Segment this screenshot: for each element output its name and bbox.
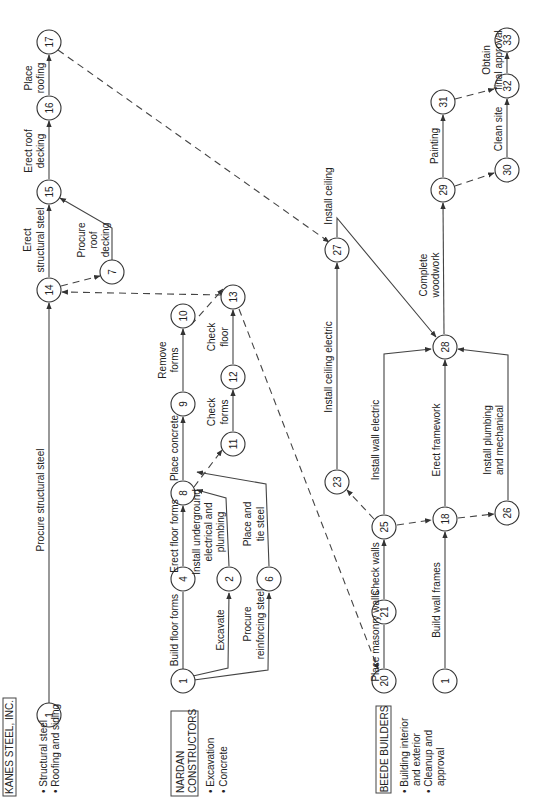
node-9[interactable]: 9 — [171, 392, 195, 416]
node-6[interactable]: 6 — [257, 567, 281, 591]
svg-text:13: 13 — [228, 291, 239, 303]
label-place-tie-steel-2: tie steel — [255, 507, 266, 541]
svg-text:10: 10 — [178, 310, 189, 322]
node-2[interactable]: 2 — [217, 567, 241, 591]
svg-text:4: 4 — [178, 576, 189, 582]
node-15[interactable]: 15 — [37, 180, 61, 204]
edge-18-26 — [458, 514, 494, 518]
label-install-plumbing-2: and mechanical — [494, 405, 505, 475]
contractor-kanes: KANES STEEL, INC. • Structural steel • R… — [3, 698, 61, 796]
label-erect-framework: Erect framework — [431, 403, 442, 477]
label-complete-woodwork-1: Complete — [418, 253, 429, 296]
label-place-roofing-2: roofing — [35, 63, 46, 94]
svg-text:8: 8 — [178, 490, 189, 496]
node-25[interactable]: 25 — [372, 515, 396, 539]
edge-29-30 — [455, 173, 494, 186]
label-procure-roof-decking-3: decking — [100, 223, 111, 257]
label-procure-roof-decking-1: Procure — [76, 222, 87, 257]
svg-text:1: 1 — [440, 678, 451, 684]
label-remove-forms-2: forms — [169, 348, 180, 373]
svg-text:2: 2 — [224, 576, 235, 582]
nardan-scope-1: • Excavation — [205, 738, 216, 793]
label-check-forms-2: forms — [219, 400, 230, 425]
label-erect-structural-steel-2: structural steel — [35, 207, 46, 272]
label-place-roofing-1: Place — [23, 65, 34, 90]
label-build-floor-forms: Build floor forms — [169, 594, 180, 666]
svg-text:9: 9 — [178, 401, 189, 407]
edge-8-11 — [194, 450, 222, 487]
edge-17-27 — [58, 50, 329, 242]
node-13[interactable]: 13 — [221, 285, 245, 309]
svg-text:16: 16 — [44, 102, 55, 114]
label-obtain-approval-1: Obtain — [481, 45, 492, 74]
label-place-concrete: Place concrete — [169, 414, 180, 481]
node-12[interactable]: 12 — [221, 365, 245, 389]
node-18[interactable]: 18 — [433, 507, 457, 531]
svg-text:12: 12 — [228, 371, 239, 383]
svg-text:17: 17 — [44, 36, 55, 48]
node-14[interactable]: 14 — [37, 278, 61, 302]
label-erect-roof-decking-1: Erect roof — [23, 129, 34, 173]
edge-25-18 — [397, 520, 431, 525]
edge-25-28 — [384, 349, 431, 514]
label-install-plumbing-1: Install plumbing — [482, 405, 493, 474]
node-7[interactable]: 7 — [100, 260, 124, 284]
svg-text:1: 1 — [178, 678, 189, 684]
svg-text:18: 18 — [440, 513, 451, 525]
network-diagram: 1 14 15 16 17 7 1 4 2 6 8 9 10 11 12 13 … — [0, 0, 533, 812]
edge-25-23 — [347, 490, 374, 519]
label-check-forms-1: Check — [206, 397, 217, 426]
svg-text:27: 27 — [332, 244, 343, 256]
svg-text:14: 14 — [44, 284, 55, 296]
svg-text:15: 15 — [44, 186, 55, 198]
label-excavate: Excavate — [215, 609, 226, 651]
label-place-tie-steel-1: Place and — [242, 502, 253, 546]
svg-text:11: 11 — [228, 438, 239, 449]
node-30[interactable]: 30 — [495, 158, 519, 182]
svg-text:28: 28 — [440, 341, 451, 353]
node-29[interactable]: 29 — [431, 178, 455, 202]
label-install-underground-1: Install underground — [191, 489, 202, 575]
svg-text:25: 25 — [379, 521, 390, 533]
beede-scope-3: • Cleanup and — [423, 730, 434, 793]
label-install-ceiling: Install ceiling — [323, 167, 334, 224]
label-remove-forms-1: Remove — [157, 341, 168, 379]
kanes-scope-1: • Structural steel — [38, 720, 49, 793]
node-16[interactable]: 16 — [37, 96, 61, 120]
label-erect-roof-decking-2: decking — [35, 134, 46, 168]
node-10[interactable]: 10 — [171, 304, 195, 328]
label-procure-reinforcing-2: reinforcing steel — [255, 589, 266, 660]
node-b1[interactable]: 1 — [433, 669, 457, 693]
beede-scope-1: • Building interior — [399, 717, 410, 793]
edge-13-14 — [62, 292, 222, 295]
label-painting: Painting — [429, 128, 440, 164]
label-erect-floor-forms: Erect floor forms — [169, 499, 180, 572]
node-31[interactable]: 31 — [431, 90, 455, 114]
nodes: 1 14 15 16 17 7 1 4 2 6 8 9 10 11 12 13 … — [37, 28, 519, 727]
nardan-name-1: NARDAN — [175, 751, 186, 793]
node-27[interactable]: 27 — [325, 238, 349, 262]
label-install-ceiling-electric: Install ceiling electric — [323, 321, 334, 413]
label-build-wall-frames: Build wall frames — [431, 562, 442, 638]
svg-text:7: 7 — [107, 269, 118, 275]
label-place-masonry-walls: Place masonry walls — [370, 590, 381, 681]
label-obtain-approval-2: final approval — [493, 30, 504, 89]
kanes-name: KANES STEEL, INC. — [4, 700, 15, 794]
node-23[interactable]: 23 — [325, 470, 349, 494]
node-11[interactable]: 11 — [221, 432, 245, 456]
label-check-floor-2: floor — [219, 327, 230, 347]
edge-14-7 — [61, 276, 100, 286]
nardan-name-2: CONSTRUCTORS — [187, 708, 198, 793]
node-28[interactable]: 28 — [433, 335, 457, 359]
contractor-beede: BEEDE BUILDERS • Building interior and e… — [376, 705, 446, 793]
node-26[interactable]: 26 — [495, 501, 519, 525]
svg-text:6: 6 — [264, 576, 275, 582]
edge-28-29 — [443, 203, 444, 334]
label-check-floor-1: Check — [206, 322, 217, 351]
label-procure-reinforcing-1: Procure — [242, 606, 253, 641]
nardan-scope-2: • Concrete — [218, 746, 229, 793]
label-clean-site: Clean site — [493, 106, 504, 151]
svg-text:23: 23 — [332, 476, 343, 488]
node-d1[interactable]: 1 — [171, 669, 195, 693]
node-17[interactable]: 17 — [37, 30, 61, 54]
